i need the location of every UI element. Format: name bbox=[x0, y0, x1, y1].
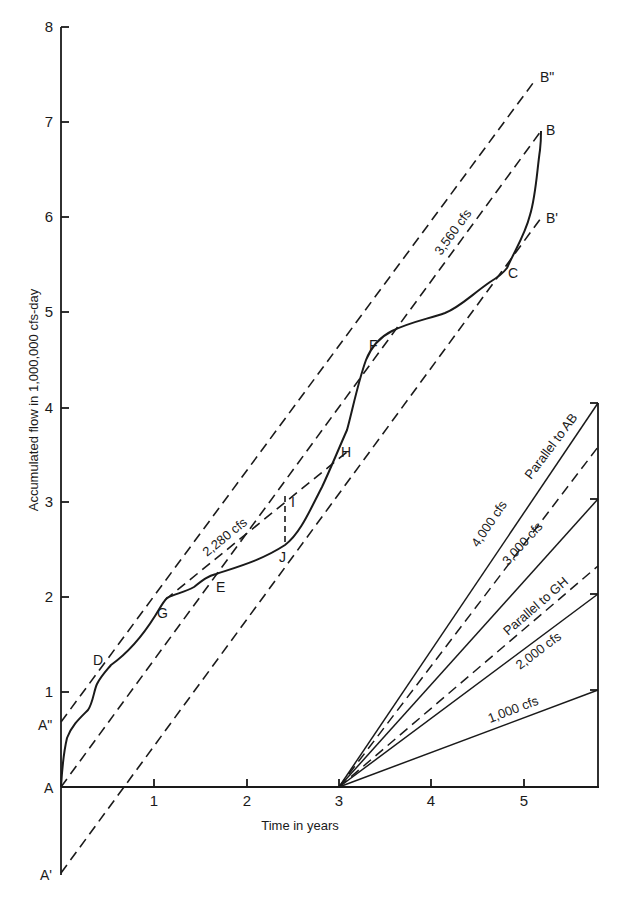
x-tick-5: 5 bbox=[520, 792, 528, 809]
rate-line-parallel-gh bbox=[339, 566, 598, 787]
axes bbox=[61, 27, 599, 875]
y-tick-labels: 8 7 6 5 4 3 2 1 bbox=[45, 18, 53, 700]
point-label-f: F bbox=[369, 337, 378, 353]
point-labels: A A' A" B" B B' C D E F G H I J bbox=[38, 69, 558, 883]
point-label-b: B bbox=[546, 122, 555, 138]
y-tick-2: 2 bbox=[45, 588, 53, 605]
y-tick-7: 7 bbox=[45, 113, 53, 130]
rate-line-parallel-ab bbox=[339, 447, 598, 787]
rate-line-1000 bbox=[339, 690, 598, 787]
rate-scale-ticks bbox=[590, 403, 598, 690]
y-tick-5: 5 bbox=[45, 303, 53, 320]
point-label-i: I bbox=[291, 494, 295, 510]
x-tick-4: 4 bbox=[427, 792, 435, 809]
slope-annotations: 3,560 cfs 2,280 cfs bbox=[199, 206, 474, 559]
y-tick-4: 4 bbox=[45, 399, 53, 416]
label-2000-cfs: 2,000 cfs bbox=[513, 628, 565, 672]
point-label-c: C bbox=[508, 265, 518, 281]
rate-line-2000 bbox=[339, 594, 598, 787]
x-axis-label: Time in years bbox=[261, 818, 339, 833]
point-label-a: A bbox=[44, 780, 54, 796]
point-label-b1: B' bbox=[546, 210, 558, 226]
point-label-j: J bbox=[279, 549, 286, 565]
line-a1-b1 bbox=[61, 218, 541, 873]
y-axis-label: Accumulated flow in 1,000,000 cfs-day bbox=[26, 288, 41, 511]
line-a2-b2 bbox=[61, 79, 536, 722]
y-tick-3: 3 bbox=[45, 493, 53, 510]
point-label-a1: A' bbox=[40, 867, 52, 883]
x-tick-2: 2 bbox=[243, 792, 251, 809]
point-label-d: D bbox=[93, 652, 103, 668]
x-tick-3: 3 bbox=[335, 792, 343, 809]
y-tick-6: 6 bbox=[45, 208, 53, 225]
point-label-h: H bbox=[341, 444, 351, 460]
label-3000-cfs: 3,000 cfs bbox=[499, 518, 546, 568]
x-tick-labels: 1 2 3 4 5 bbox=[150, 792, 528, 809]
point-label-b2: B" bbox=[540, 69, 554, 85]
point-label-g: G bbox=[157, 605, 168, 621]
line-a-b bbox=[61, 131, 541, 787]
x-tick-1: 1 bbox=[150, 792, 158, 809]
y-tick-8: 8 bbox=[45, 18, 53, 35]
label-1000-cfs: 1,000 cfs bbox=[486, 693, 541, 726]
y-tick-1: 1 bbox=[45, 683, 53, 700]
point-label-e: E bbox=[216, 579, 225, 595]
reference-lines bbox=[61, 79, 541, 873]
y-ticks bbox=[61, 27, 69, 692]
mass-curve-chart: 8 7 6 5 4 3 2 1 1 2 3 4 5 Time in years … bbox=[0, 0, 619, 902]
label-parallel-gh: Parallel to GH bbox=[500, 574, 571, 638]
label-parallel-ab: Parallel to AB bbox=[521, 410, 580, 481]
line-g-h bbox=[165, 452, 347, 600]
point-label-a2: A" bbox=[38, 717, 52, 733]
